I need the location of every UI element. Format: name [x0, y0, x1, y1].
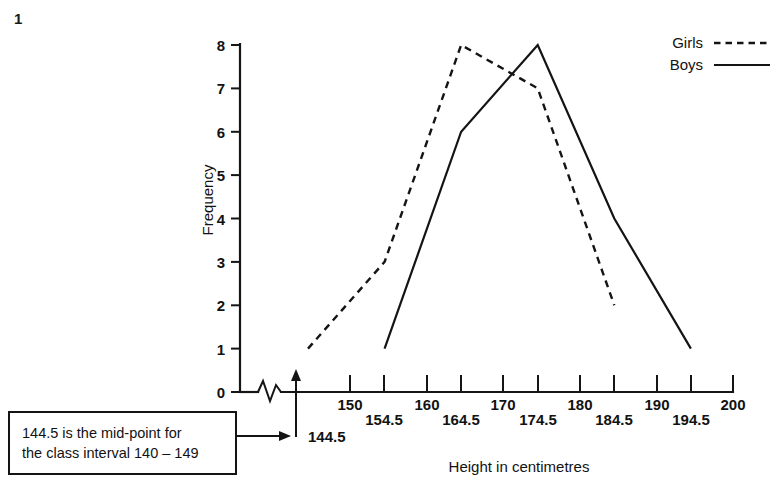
x-tick-label-190: 190: [644, 396, 669, 413]
series-line-boys: [385, 45, 691, 349]
callout-line-1: 144.5 is the mid-point for: [22, 425, 182, 441]
x-tick-label-164-5: 164.5: [442, 411, 480, 428]
x-tick-label-154-5: 154.5: [365, 411, 403, 428]
series-line-girls: [308, 45, 614, 349]
x-tick-label-160: 160: [414, 396, 439, 413]
y-axis-title: Frequency: [199, 164, 216, 235]
y-tick-label-5: 5: [217, 167, 225, 184]
y-tick-label-8: 8: [217, 37, 225, 54]
x-tick-label-150: 150: [337, 396, 362, 413]
y-tick-label-2: 2: [217, 297, 225, 314]
callout-box: [9, 412, 236, 474]
y-tick-label-7: 7: [217, 80, 225, 97]
frequency-polygon-chart: 0 1 2 3 4 5 6 7 8 Frequency: [0, 0, 778, 488]
y-tick-label-3: 3: [217, 254, 225, 271]
x-axis-ticks: [350, 375, 733, 392]
x-tick-label-194-5: 194.5: [672, 411, 710, 428]
midpoint-value-label: 144.5: [308, 428, 346, 445]
x-tick-label-180: 180: [567, 396, 592, 413]
y-tick-label-1: 1: [217, 341, 225, 358]
x-tick-label-184-5: 184.5: [595, 411, 633, 428]
y-tick-label-4: 4: [217, 211, 226, 228]
midpoint-marker-arrow: [291, 369, 301, 437]
y-tick-label-0: 0: [217, 384, 225, 401]
callout-connector: [236, 431, 291, 441]
x-tick-label-170: 170: [490, 396, 515, 413]
y-tick-label-6: 6: [217, 124, 225, 141]
y-axis-ticks: [231, 45, 240, 392]
legend: Girls Boys: [670, 34, 770, 73]
axis-break-icon: [258, 381, 281, 401]
callout-line-2: the class interval 140 – 149: [22, 445, 199, 461]
x-axis-title: Height in centimetres: [449, 458, 590, 475]
figure-stage: 1 0 1 2 3 4 5 6 7 8 Frequency: [0, 0, 778, 488]
x-tick-label-174-5: 174.5: [519, 411, 557, 428]
legend-label-girls: Girls: [672, 34, 703, 51]
x-tick-label-200: 200: [720, 396, 745, 413]
legend-label-boys: Boys: [670, 56, 703, 73]
